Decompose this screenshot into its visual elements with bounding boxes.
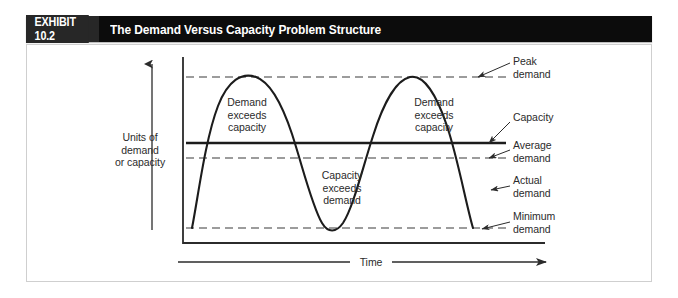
annotation-demand-exceeds-capacity-1: Demand exceeds capacity — [216, 96, 278, 134]
x-axis-label: Time — [352, 256, 390, 269]
callout-minimum-demand: Minimum demand — [513, 210, 555, 235]
exhibit-header-bar: EXHIBIT 10.2 The Demand Versus Capacity … — [26, 16, 652, 42]
y-axis-label: Units of demand or capacity — [103, 131, 177, 169]
annotation-capacity-exceeds-demand: Capacity exceeds demand — [311, 169, 373, 207]
annotation-demand-exceeds-capacity-2: Demand exceeds capacity — [403, 96, 465, 134]
exhibit-title: The Demand Versus Capacity Problem Struc… — [99, 16, 608, 42]
callout-actual-demand: Actual demand — [513, 174, 551, 199]
exhibit-number-label: EXHIBIT 10.2 — [26, 15, 88, 43]
exhibit-figure: EXHIBIT 10.2 The Demand Versus Capacity … — [0, 0, 678, 298]
callout-peak-demand: Peak demand — [513, 55, 551, 80]
callout-capacity: Capacity — [513, 111, 553, 124]
callout-average-demand: Average demand — [513, 139, 552, 164]
exhibit-number-badge: EXHIBIT 10.2 — [26, 16, 99, 42]
